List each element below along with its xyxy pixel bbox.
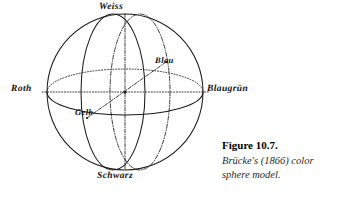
figure-container: Weiss Roth Blaugrün Schwarz Blau Gelb Fi…	[0, 0, 345, 204]
gelb-point	[86, 117, 88, 119]
caption-number: Figure 10.7.	[222, 138, 340, 152]
label-blau: Blau	[155, 55, 174, 65]
caption-text: Brücke's (1866) color sphere model.	[222, 154, 340, 182]
label-blaugruen: Blaugrün	[207, 84, 248, 94]
label-schwarz: Schwarz	[97, 171, 133, 181]
figure-caption: Figure 10.7. Brücke's (1866) color spher…	[222, 138, 340, 182]
label-weiss: Weiss	[99, 2, 123, 12]
label-gelb: Gelb	[75, 107, 93, 117]
label-roth: Roth	[11, 84, 32, 94]
sphere-center-point	[124, 91, 127, 94]
